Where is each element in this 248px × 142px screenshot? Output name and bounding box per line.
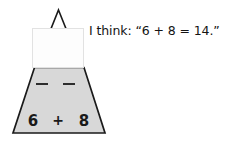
addend-left: 6 (28, 112, 38, 130)
operator-plus: + (52, 112, 64, 128)
cover-box (32, 28, 84, 68)
addend-right: 8 (79, 112, 89, 130)
figure-stage: 6 + 8 I think: “6 + 8 = 14.” (0, 0, 248, 142)
triangle-apex-peak (51, 10, 67, 30)
math-mountain-diagram: 6 + 8 (0, 0, 248, 142)
thought-statement: I think: “6 + 8 = 14.” (89, 23, 241, 39)
